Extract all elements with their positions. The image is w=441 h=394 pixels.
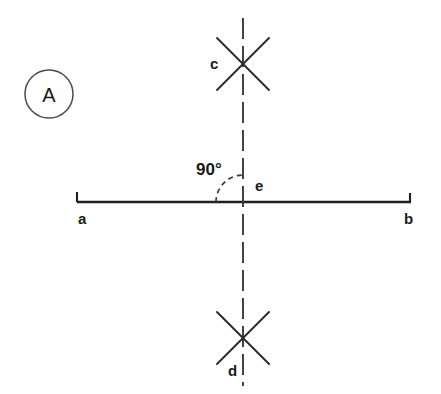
panel-label-group: A [25,70,73,118]
figure-canvas: A a b c d e 90° [0,0,441,394]
label-point-c: c [210,55,218,72]
right-angle-arc [216,175,243,202]
panel-label: A [42,84,56,106]
base-line-group [77,192,411,202]
label-point-b: b [404,210,413,227]
label-point-e: e [255,177,263,194]
label-right-angle: 90° [196,160,222,179]
label-point-a: a [78,210,87,227]
geometry-diagram: A a b c d e 90° [0,0,441,394]
label-point-d: d [228,362,237,379]
